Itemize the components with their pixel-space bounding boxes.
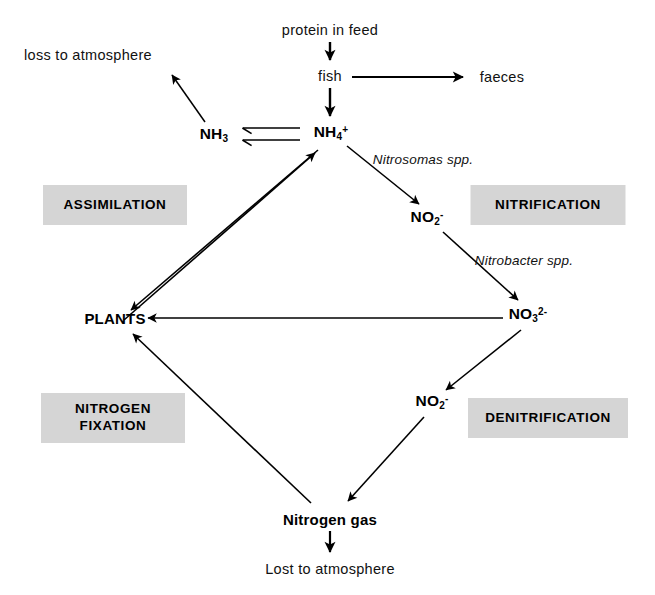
node-protein-in-feed: protein in feed [282, 23, 378, 38]
node-ammonia: NH3 [200, 126, 229, 144]
edge-nitrate-to-nitrite-denitrification [446, 330, 521, 390]
tag-nitrification: NITRIFICATION [471, 185, 626, 225]
edge-label-nitrobacter: Nitrobacter spp. [475, 253, 574, 268]
edge-nitrite-to-nitrogen-gas [348, 417, 424, 501]
nitrite-top-formula: NO2- [411, 208, 444, 225]
edge-ammonia-to-loss [172, 75, 205, 122]
edge-layer [0, 0, 655, 595]
ammonium-charge: + [342, 124, 348, 135]
tag-nitrogen-fixation: NITROGEN FIXATION [41, 393, 185, 443]
ammonia-subscript: 3 [223, 133, 229, 144]
tag-assimilation-label: ASSIMILATION [64, 197, 167, 214]
tag-nitrogen-fixation-label: NITROGEN FIXATION [75, 401, 151, 435]
node-nitrogen-gas: Nitrogen gas [283, 512, 377, 527]
edge-label-nitrosomas: Nitrosomas spp. [373, 152, 474, 167]
tag-denitrification-label: DENITRIFICATION [485, 410, 611, 427]
node-fish: fish [318, 69, 342, 84]
node-lost-to-atmosphere: Lost to atmosphere [265, 562, 395, 577]
edge-ammonium-equilibrium [243, 128, 300, 140]
nitrite-bottom-charge: - [445, 393, 449, 404]
nitrate-formula: NO32- [509, 305, 548, 322]
node-loss-to-atmosphere: loss to atmosphere [24, 48, 152, 63]
nitrogen-cycle-diagram: protein in feed fish faeces loss to atmo… [0, 0, 655, 595]
tag-nitrification-label: NITRIFICATION [495, 197, 601, 214]
nitrite-bottom-formula: NO2- [416, 392, 449, 409]
node-nitrite-bottom: NO2- [416, 393, 449, 411]
node-nitrite-top: NO2- [411, 209, 444, 227]
node-plants: PLANTS [84, 311, 145, 326]
ammonia-formula: NH3 [200, 125, 229, 142]
nitrite-top-charge: - [440, 209, 444, 220]
edge-plants-to-ammonium [124, 153, 315, 320]
ammonium-formula: NH4+ [314, 123, 349, 140]
tag-assimilation: ASSIMILATION [43, 185, 187, 225]
node-ammonium: NH4+ [314, 124, 349, 142]
node-nitrate: NO32- [509, 306, 548, 324]
tag-denitrification: DENITRIFICATION [468, 398, 628, 438]
nitrate-charge: 2- [538, 306, 547, 317]
node-faeces: faeces [480, 70, 525, 85]
